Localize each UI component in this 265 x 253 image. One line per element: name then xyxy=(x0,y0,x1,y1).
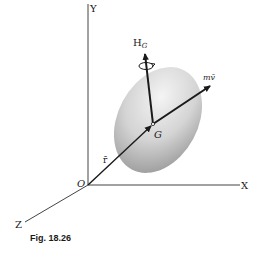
rigid-body-momentum-diagram: Y X Z O G HG mv̄ r̄ Fig. 18.26 xyxy=(0,0,265,253)
center-of-mass-label: G xyxy=(154,129,162,140)
origin-label: O xyxy=(77,178,85,189)
y-axis-label: Y xyxy=(89,3,97,14)
x-axis-label: X xyxy=(241,180,249,191)
z-axis xyxy=(25,185,88,222)
center-of-mass-point xyxy=(151,122,154,125)
angular-momentum-label-main: H xyxy=(133,37,142,48)
linear-momentum-label: mv̄ xyxy=(203,73,216,82)
z-axis-label: Z xyxy=(15,219,22,230)
figure-caption: Fig. 18.26 xyxy=(30,233,71,243)
position-vector-label: r̄ xyxy=(103,155,108,165)
angular-momentum-label-sub: G xyxy=(142,42,148,50)
angular-momentum-label: HG xyxy=(133,37,148,50)
